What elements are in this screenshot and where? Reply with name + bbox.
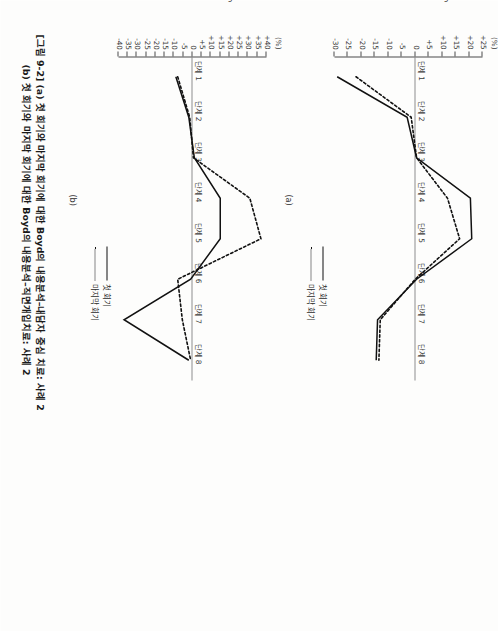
chart-series-layer <box>276 16 488 388</box>
chart-series-layer <box>60 16 272 388</box>
caption-line-1: [그림 9-2] (a) 첫 회기와 마지막 회기에 대한 Boyd의 내용분석… <box>32 34 46 410</box>
line-chart-a: +25+20+15+10+50-5-10-15-20-25-30(%)Perce… <box>276 16 488 388</box>
scanned-page: +25+20+15+10+50-5-10-15-20-25-30(%)Perce… <box>0 0 498 631</box>
legend-line-dotted-icon <box>310 246 311 280</box>
legend-label-last-session: 마지막 회기 <box>89 283 100 320</box>
series-first-session <box>124 76 220 360</box>
series-last-session <box>177 76 260 360</box>
panel-letter-b: (b) <box>67 194 76 205</box>
legend-line-solid-icon <box>322 246 323 280</box>
line-chart-b: +40+35+30+25+20+15+10+50-5-10-15-20-25-3… <box>60 16 272 388</box>
y-axis-title: Percentage <box>192 0 237 1</box>
legend-line-dotted-icon <box>94 246 95 280</box>
chart-panel-b: +40+35+30+25+20+15+10+50-5-10-15-20-25-3… <box>60 16 272 388</box>
y-axis-unit-label: (%) <box>489 18 498 49</box>
series-first-session <box>337 76 472 360</box>
figure-caption: [그림 9-2] (a) 첫 회기와 마지막 회기에 대한 Boyd의 내용분석… <box>18 34 46 410</box>
legend-label-first-session: 첫 회기 <box>101 283 112 306</box>
legend-label-first-session: 첫 회기 <box>317 283 328 306</box>
caption-line-2: (b) 첫 회기와 마지막 회기에 대한 Boyd의 내용분석–직면개입치료: … <box>18 34 32 410</box>
y-axis-title: Percentage <box>408 0 453 1</box>
panel-letter-a: (a) <box>283 194 292 205</box>
legend-label-last-session: 마지막 회기 <box>305 283 316 320</box>
chart-panel-a: +25+20+15+10+50-5-10-15-20-25-30(%)Perce… <box>276 16 488 388</box>
y-axis-unit-label: (%) <box>273 18 282 49</box>
legend-line-solid-icon <box>106 246 107 280</box>
